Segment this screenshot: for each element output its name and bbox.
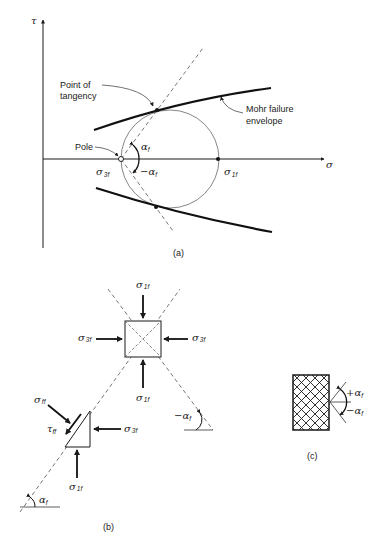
panel-a-mohr-diagram: τ σ Point of tangency Mohr failure envel… xyxy=(31,15,334,258)
neg-alpha-arc-b xyxy=(196,413,202,430)
failure-plane-line-positive xyxy=(121,48,203,159)
envelope-label-1: Mohr failure xyxy=(246,104,294,114)
sigma-ff-label: σff xyxy=(34,394,47,405)
sigma3f-label: σ3f xyxy=(96,166,110,178)
sigma3f-right-label: σ3f xyxy=(192,332,206,343)
hatched-specimen xyxy=(293,375,329,430)
tangency-point-lower xyxy=(154,205,158,209)
neg-alpha-arc xyxy=(133,159,139,173)
sigma-axis-label: σ xyxy=(326,159,334,170)
panel-c-failure-planes: +αf −αf (c) xyxy=(293,375,364,461)
sigma1f-tri-label: σ1f xyxy=(69,481,83,492)
tangency-pointer xyxy=(102,85,153,106)
tangency-point-upper xyxy=(155,108,159,112)
sigma1f-label: σ1f xyxy=(224,166,238,178)
sigma1f-top-label: σ1f xyxy=(136,279,150,290)
sigma1f-bottom-label: σ1f xyxy=(136,392,150,403)
tangency-label-2: tangency xyxy=(60,91,97,101)
mohr-coulomb-figure: τ σ Point of tangency Mohr failure envel… xyxy=(0,0,382,541)
caption-c: (c) xyxy=(307,451,318,461)
sigma-ff-arrow xyxy=(48,405,70,423)
sigma3f-left-label: σ3f xyxy=(78,332,92,343)
failure-envelope-upper xyxy=(94,88,271,130)
alpha-arc-b xyxy=(30,497,35,507)
caption-b: (b) xyxy=(103,522,114,532)
failure-plane-falling xyxy=(108,289,213,430)
tau-axis-label: τ xyxy=(31,15,37,26)
neg-alpha-label-b: −αf xyxy=(174,410,192,422)
failure-envelope-lower xyxy=(96,188,272,232)
caption-a: (a) xyxy=(173,248,184,258)
pole-label: Pole xyxy=(75,142,93,152)
alpha-f-label: αf xyxy=(141,141,151,153)
alpha-label-b: αf xyxy=(39,494,49,506)
neg-alpha-f-label: −αf xyxy=(140,166,158,178)
sigma1f-point xyxy=(216,157,220,161)
envelope-label-2: envelope xyxy=(246,116,283,126)
alpha-arc xyxy=(133,145,139,159)
panel-b-stress-element: σ1f σ1f σ3f σ3f σff τff σ3f σ1f −αf αf (… xyxy=(20,279,213,532)
tau-ff-label: τff xyxy=(47,423,57,435)
pos-alpha-label-c: +αf xyxy=(346,387,364,399)
neg-alpha-label-c: −αf xyxy=(346,405,364,417)
pole-point xyxy=(119,157,124,162)
pole-pointer xyxy=(95,147,118,156)
tangency-label-1: Point of xyxy=(60,80,91,90)
sigma3f-tri-label: σ3f xyxy=(124,423,138,434)
envelope-pointer xyxy=(221,97,243,113)
